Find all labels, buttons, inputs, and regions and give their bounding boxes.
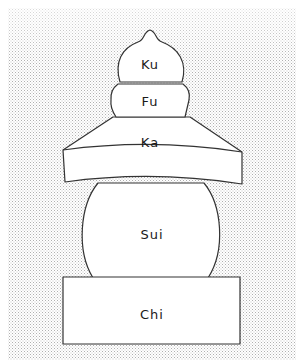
- ku-label: Ku: [141, 57, 159, 72]
- sui-label: Sui: [140, 227, 163, 242]
- gorinto-diagram: Ku Fu Ka Sui Chi: [0, 0, 301, 360]
- chi-label: Chi: [140, 307, 164, 322]
- ka-label: Ka: [141, 135, 159, 150]
- fu-label: Fu: [141, 94, 158, 109]
